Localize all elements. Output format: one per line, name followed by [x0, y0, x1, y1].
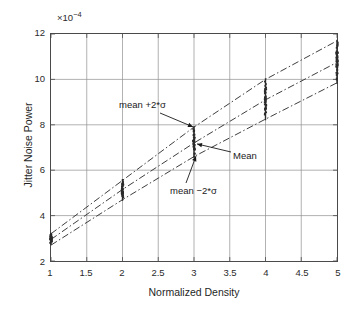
data-layer: [51, 34, 337, 261]
scatter-cluster: [335, 40, 338, 84]
x-tick-label: 4.5: [295, 268, 308, 278]
y-tick-label: 12: [22, 28, 45, 38]
y-axis-title: Jitter Noise Power: [22, 65, 34, 225]
annotation-mean-plus-2sigma: mean +2*σ: [119, 100, 166, 110]
chart-figure: ×10−4 Jitter Noise Power Normalized Dens…: [0, 0, 357, 311]
x-tick-label: 1: [47, 268, 52, 278]
y-tick-label: 2: [22, 257, 45, 267]
scatter-cluster: [192, 126, 195, 158]
scatter-cluster: [121, 179, 124, 201]
trend-line: [51, 83, 337, 245]
y-tick-label: 10: [22, 74, 45, 84]
x-tick-label: 3: [191, 268, 196, 278]
y-axis-exponent-power: −4: [73, 10, 82, 19]
y-axis-exponent-mantissa: ×10: [57, 12, 73, 23]
x-tick-label: 2.5: [151, 268, 164, 278]
x-tick-label: 5: [335, 268, 340, 278]
x-tick-label: 3.5: [223, 268, 236, 278]
y-tick-label: 6: [22, 166, 45, 176]
annotation-mean-minus-2sigma: mean −2*σ: [170, 186, 217, 196]
y-tick-label: 8: [22, 120, 45, 130]
x-tick-label: 4: [263, 268, 268, 278]
scatter-cluster: [49, 233, 52, 245]
y-tick-label: 4: [22, 211, 45, 221]
x-tick-label: 1.5: [79, 268, 92, 278]
plot-area: [50, 33, 338, 262]
y-axis-exponent-label: ×10−4: [57, 13, 82, 23]
annotation-mean: Mean: [233, 151, 257, 161]
x-axis-title: Normalized Density: [50, 286, 338, 298]
x-tick-label: 2: [119, 268, 124, 278]
